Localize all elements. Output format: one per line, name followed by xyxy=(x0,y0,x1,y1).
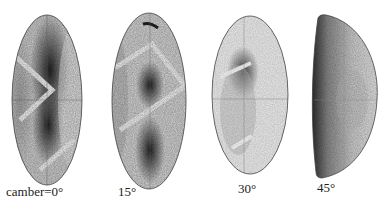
figure-canvas xyxy=(0,0,387,203)
panel-camber-15-image xyxy=(108,12,190,192)
panel-label-camber-45: 45° xyxy=(317,180,335,196)
panel-camber-45-image xyxy=(310,12,380,182)
panel-camber-30-image xyxy=(210,14,290,176)
panel-label-camber-30: 30° xyxy=(238,181,256,197)
panel-label-camber-0: camber=0° xyxy=(6,184,63,200)
panel-label-camber-15: 15° xyxy=(118,184,136,200)
panel-camber-0-image xyxy=(6,13,86,188)
